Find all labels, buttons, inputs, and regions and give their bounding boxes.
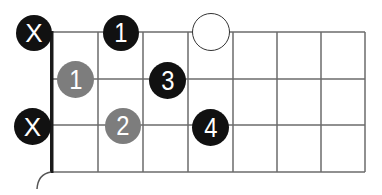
finger-marker-s1-f2: 1 xyxy=(103,15,139,51)
muted-string-3-marker: X xyxy=(14,108,51,145)
bracket-curve xyxy=(37,172,51,189)
mute-x-icon: X xyxy=(24,114,41,140)
finger-number: 4 xyxy=(204,114,217,142)
finger-marker-s3-f2: 2 xyxy=(105,108,141,144)
fretboard-grid xyxy=(0,0,382,195)
open-circle-marker-s1-f4 xyxy=(192,13,230,51)
finger-number: 1 xyxy=(114,19,127,47)
finger-marker-s2-f3: 3 xyxy=(149,62,186,99)
muted-string-1-marker: X xyxy=(16,15,52,51)
finger-number: 1 xyxy=(69,66,82,94)
finger-marker-s2-f1: 1 xyxy=(57,61,94,98)
strings xyxy=(52,32,365,172)
frets xyxy=(98,32,365,172)
finger-number: 3 xyxy=(161,67,174,95)
nut xyxy=(50,31,54,173)
mute-x-icon: X xyxy=(25,20,42,46)
finger-marker-s3-f4: 4 xyxy=(192,109,229,146)
finger-number: 2 xyxy=(116,112,129,140)
chord-diagram: X X 1 1 3 2 4 xyxy=(0,0,382,195)
